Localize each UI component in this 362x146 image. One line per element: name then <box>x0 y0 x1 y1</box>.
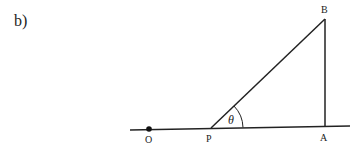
label-A: A <box>320 132 328 143</box>
segment-PB <box>211 19 325 128</box>
angle-theta-label: θ <box>228 113 234 127</box>
point-O-dot <box>146 126 152 132</box>
label-O: O <box>145 134 152 145</box>
angle-arc <box>234 106 243 128</box>
label-B: B <box>321 4 328 15</box>
geometry-diagram: O P A B θ <box>0 0 362 146</box>
label-P: P <box>206 133 212 144</box>
baseline <box>130 126 350 130</box>
